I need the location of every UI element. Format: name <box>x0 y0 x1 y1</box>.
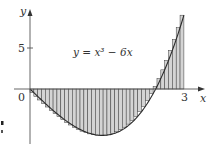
riemann-rectangle <box>76 89 80 129</box>
riemann-rectangle <box>99 89 103 135</box>
riemann-rectangle <box>107 89 111 134</box>
x-axis-arrow-icon <box>198 87 205 92</box>
margin-mark <box>1 121 4 125</box>
riemann-rectangle <box>145 89 149 100</box>
riemann-rectangle <box>80 89 84 131</box>
y-axis-arrow-icon <box>28 9 33 16</box>
x-axis-label: x <box>200 92 207 105</box>
riemann-rectangle <box>130 89 134 121</box>
riemann-rectangle <box>57 89 61 117</box>
x-tick-label: 3 <box>181 91 188 104</box>
riemann-rectangle <box>88 89 92 134</box>
riemann-rectangle <box>149 89 153 94</box>
riemann-rectangle <box>134 89 138 116</box>
riemann-rectangle <box>138 89 142 112</box>
riemann-rectangle <box>115 89 119 132</box>
y-tick-label: 5 <box>18 42 25 55</box>
riemann-rectangle <box>68 89 72 125</box>
riemann-rectangle <box>172 39 176 89</box>
riemann-rectangle <box>61 89 65 120</box>
riemann-rectangle <box>118 89 122 130</box>
riemann-rectangle <box>111 89 115 133</box>
riemann-rectangle <box>103 89 107 135</box>
riemann-rectangle <box>126 89 130 124</box>
riemann-rectangle <box>92 89 96 135</box>
equation-label: y = x³ − 6x <box>72 46 133 58</box>
riemann-rectangles <box>30 15 184 135</box>
riemann-rectangle <box>53 89 57 114</box>
riemann-rectangle <box>161 70 165 89</box>
riemann-rectangle <box>122 89 126 127</box>
riemann-rectangle <box>95 89 99 135</box>
y-axis-label: y <box>19 5 27 18</box>
riemann-rectangle <box>84 89 88 133</box>
riemann-rectangle <box>65 89 69 122</box>
riemann-rectangle <box>142 89 146 106</box>
riemann-rectangle <box>72 89 76 127</box>
origin-label: 0 <box>18 91 25 104</box>
riemann-sum-plot: y 5 0 3 x y = x³ − 6x <box>0 0 218 152</box>
margin-mark <box>1 130 3 133</box>
